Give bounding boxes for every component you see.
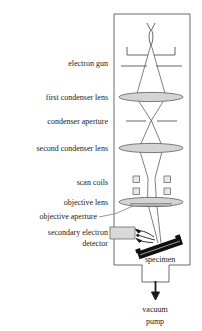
first-condenser-lens-element: [119, 92, 183, 101]
scan-coil-lower-left: [133, 188, 140, 195]
label-condenser-aperture: condenser aperture: [47, 117, 108, 126]
scan-coil-lower-right: [164, 188, 171, 195]
label-secondary-electron-detector-line1: secondary electron: [48, 228, 108, 237]
second-condenser-lens-element: [119, 143, 183, 152]
secondary-electron-trajectories: [135, 229, 155, 242]
label-vacuum-pump-line2: pump: [146, 317, 164, 326]
label-vacuum-pump-line1: vacuum: [142, 305, 168, 314]
specimen-surface-line: [140, 241, 180, 255]
label-objective-aperture: objective aperture: [39, 212, 97, 221]
sem-column-diagram: electron gun first condenser lens conden…: [0, 0, 202, 331]
vacuum-pump-arrow: [152, 281, 160, 300]
scan-coil-squares: [133, 176, 171, 195]
objective-aperture-plate: [131, 204, 171, 207]
label-objective-lens: objective lens: [64, 198, 108, 207]
label-scan-coils: scan coils: [77, 178, 108, 187]
sem-diagram-page: electron gun first condenser lens conden…: [0, 0, 202, 331]
objective-aperture-leader-line: [99, 206, 133, 217]
electron-gun-filament: [147, 23, 155, 45]
label-second-condenser-lens: second condenser lens: [36, 144, 108, 153]
scan-coil-upper-left: [133, 176, 140, 183]
label-electron-gun: electron gun: [68, 59, 108, 68]
label-secondary-electron-detector-line2: detector: [82, 239, 108, 248]
label-first-condenser-lens: first condenser lens: [46, 93, 108, 102]
secondary-electron-detector-body: [110, 227, 135, 239]
label-specimen: specimen: [145, 255, 175, 264]
scan-coil-upper-right: [164, 176, 171, 183]
wehnelt-cap-bracket: [127, 47, 175, 55]
